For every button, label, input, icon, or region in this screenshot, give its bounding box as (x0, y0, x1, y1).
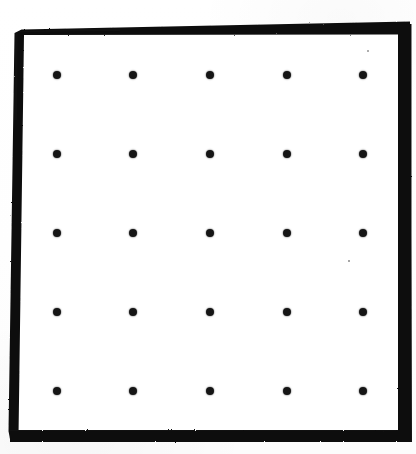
figure-root: Scanned black-bordered rectangular plate… (0, 0, 416, 454)
frame-right-bar (398, 24, 412, 442)
frame-bottom-bar (10, 431, 411, 443)
framed-plate (0, 0, 416, 454)
plate-field (16, 33, 400, 432)
